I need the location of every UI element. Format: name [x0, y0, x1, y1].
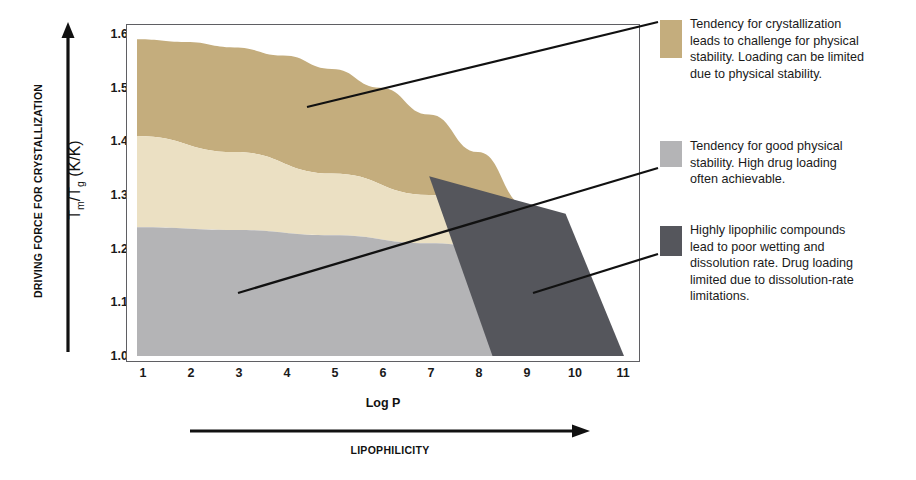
- legend-text-good-stability: Tendency for good physical stability. Hi…: [690, 138, 843, 188]
- x-tick-label: 9: [524, 366, 531, 380]
- x-tick-label: 11: [616, 366, 629, 380]
- legend-swatch-lipophilic: [660, 226, 682, 256]
- y-tick-label: 1.5: [94, 81, 128, 95]
- x-tick-label: 3: [236, 366, 243, 380]
- y-tick-label: 1.4: [94, 134, 128, 148]
- y-axis-title-tm: T: [66, 210, 83, 220]
- region-chart: [127, 25, 638, 360]
- x-tick-label: 1: [140, 366, 147, 380]
- driving-force-axis-label: DRIVING FORCE FOR CRYSTALLIZATION: [32, 61, 44, 321]
- legend-swatch-good-stability: [660, 141, 682, 167]
- legend-item-lipophilic[interactable]: Highly lipophilic compounds lead to poor…: [660, 222, 854, 305]
- y-axis-title: Tm/Tg (K/K): [66, 90, 86, 270]
- y-tick-label: 1.2: [94, 242, 128, 256]
- y-tick-label: 1.3: [94, 188, 128, 202]
- y-axis-sub-g: g: [74, 181, 86, 187]
- y-axis-sub-m: m: [74, 201, 86, 210]
- x-axis-ticks: 1234567891011: [126, 366, 640, 386]
- x-tick-label: 8: [476, 366, 483, 380]
- x-tick-label: 4: [284, 366, 291, 380]
- legend-item-good-stability[interactable]: Tendency for good physical stability. Hi…: [660, 138, 843, 188]
- y-axis-units: (K/K): [66, 140, 83, 181]
- legend-swatch-crystallization: [660, 20, 682, 58]
- y-tick-label: 1.6: [94, 27, 128, 41]
- legend-item-crystallization[interactable]: Tendency for crystallization leads to ch…: [660, 16, 864, 82]
- lipophilicity-axis-label: LIPOPHILICITY: [190, 444, 590, 456]
- y-axis-ticks: 1.61.51.41.31.21.11.0: [92, 0, 128, 380]
- y-axis-title-slash: /T: [66, 187, 83, 201]
- x-tick-label: 6: [380, 366, 387, 380]
- lipophilicity-arrow-icon: [190, 424, 590, 438]
- plot-area: [126, 24, 640, 362]
- x-axis-title: Log P: [126, 396, 640, 410]
- legend-text-lipophilic: Highly lipophilic compounds lead to poor…: [690, 222, 854, 305]
- figure-canvas: DRIVING FORCE FOR CRYSTALLIZATION Tm/Tg …: [0, 0, 916, 480]
- x-tick-label: 7: [428, 366, 435, 380]
- x-tick-label: 2: [188, 366, 195, 380]
- y-tick-label: 1.0: [94, 349, 128, 363]
- x-tick-label: 5: [332, 366, 339, 380]
- legend-text-crystallization: Tendency for crystallization leads to ch…: [690, 16, 864, 82]
- x-tick-label: 10: [568, 366, 582, 380]
- y-tick-label: 1.1: [94, 295, 128, 309]
